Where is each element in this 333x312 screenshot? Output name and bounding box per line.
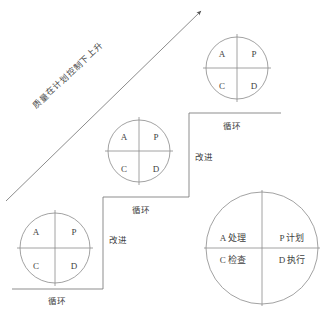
cycle-bottom-quadrant-d: D xyxy=(71,262,78,271)
cycle-bottom-quadrant-c: C xyxy=(33,262,39,271)
cycle-middle-quadrant-p: P xyxy=(153,133,158,142)
stair-tread-label-2: 循环 xyxy=(132,206,150,215)
legend-check-label: C 检查 xyxy=(220,256,246,265)
cycle-middle-quadrant-c: C xyxy=(121,165,127,174)
legend-act-label: A 处理 xyxy=(220,234,246,243)
cycle-bottom-graphic xyxy=(17,210,93,286)
cycle-bottom-quadrant-p: P xyxy=(71,228,76,237)
cycle-bottom-quadrant-a: A xyxy=(33,228,40,237)
cycle-top-quadrant-d: D xyxy=(251,82,258,91)
cycle-top-quadrant-a: A xyxy=(219,50,226,59)
diagram-vector-layer xyxy=(0,0,333,312)
stair-riser-label-2: 改进 xyxy=(195,153,213,162)
cycle-top-graphic xyxy=(203,34,271,102)
cycle-middle-graphic xyxy=(105,117,173,185)
stair-tread-label-3: 循环 xyxy=(223,122,241,131)
legend-do-label: D 执行 xyxy=(279,256,306,265)
pdca-staircase-diagram: 质量在计划控制下上升 A P C D A P C D A P C D A 处理 … xyxy=(0,0,333,312)
stair-riser-label-1: 改进 xyxy=(109,236,127,245)
legend-plan-label: P 计划 xyxy=(280,234,305,243)
cycle-middle-quadrant-a: A xyxy=(121,133,128,142)
cycle-middle-quadrant-d: D xyxy=(153,165,160,174)
stair-tread-label-1: 循环 xyxy=(48,297,66,306)
cycle-top-quadrant-c: C xyxy=(219,82,225,91)
cycle-top-quadrant-p: P xyxy=(251,50,256,59)
legend-circle-graphic xyxy=(204,190,320,306)
